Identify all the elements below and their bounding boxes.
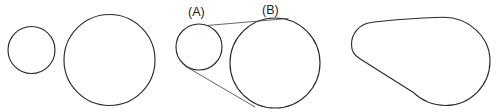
- panel-belt-hull: [352, 17, 491, 105]
- label-b: (B): [262, 3, 279, 17]
- upper-tangent-line: [207, 19, 288, 26]
- large-circle-b: [230, 18, 320, 108]
- panel-separate-circles: [8, 15, 155, 106]
- belt-hull-outline: [352, 17, 491, 105]
- small-circle-left: [8, 27, 55, 74]
- geometry-figure: (A) (B): [0, 0, 500, 112]
- small-circle-a: [176, 24, 222, 70]
- figure-canvas: (A) (B): [0, 0, 500, 112]
- label-a: (A): [188, 5, 205, 19]
- lower-tangent-line: [185, 66, 255, 107]
- panel-tangent-construction: (A) (B): [176, 3, 320, 108]
- large-circle-left: [64, 15, 155, 106]
